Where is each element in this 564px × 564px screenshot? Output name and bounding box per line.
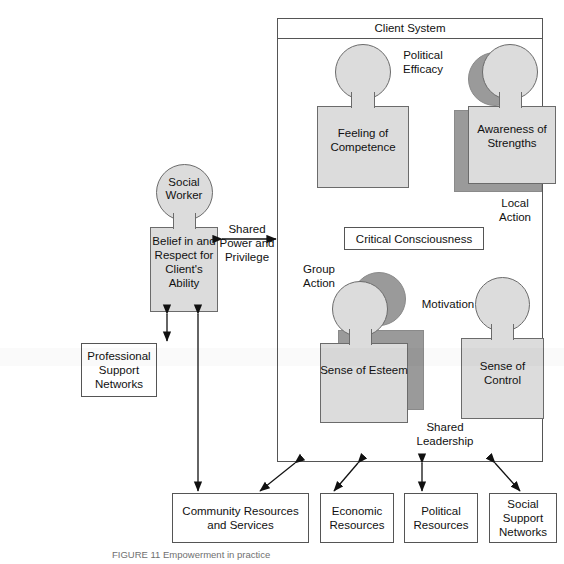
- professional-support-networks-box: Professional Support Networks: [81, 343, 157, 397]
- person-label-sense-of-control: Sense of Control: [461, 359, 544, 387]
- resource-box-economic-resources: Economic Resources: [320, 493, 394, 543]
- person-social-worker: Social Worker Belief in and Respect for …: [150, 164, 218, 312]
- annotation-shared-leadership: Shared Leadership: [390, 420, 500, 448]
- person-label-feeling-of-competence: Feeling of Competence: [317, 126, 409, 154]
- critical-consciousness-box: Critical Consciousness: [344, 227, 484, 250]
- person-label-social-worker-body: Belief in and Respect for Client's Abili…: [150, 234, 218, 290]
- resource-box-community-resources-and-services: Community Resources and Services: [172, 493, 309, 543]
- client-system-title: Client System: [375, 22, 446, 34]
- client-system-header: Client System: [277, 18, 543, 39]
- person-label-sense-of-esteem: Sense of Esteem: [320, 363, 408, 377]
- figure-canvas: Client System Feeling of Competence Awar…: [0, 0, 564, 564]
- resource-box-social-support-networks: Social Support Networks: [489, 493, 557, 543]
- resource-box-political-resources: Political Resources: [404, 493, 478, 543]
- person-label-awareness-of-strengths: Awareness of Strengths: [468, 122, 556, 150]
- figure-caption: FIGURE 11 Empowerment in practice: [112, 549, 270, 560]
- person-neck: [173, 213, 196, 229]
- resource-box-label: Political Resources: [414, 504, 469, 532]
- person-label-social-worker-head: Social Worker: [150, 176, 218, 202]
- resource-box-label: Economic Resources: [330, 504, 385, 532]
- resource-box-label: Social Support Networks: [499, 497, 547, 539]
- professional-support-networks-label: Professional Support Networks: [87, 349, 150, 391]
- arrow-client-system-to-social-support-networks: [495, 463, 520, 491]
- person-neck: [351, 92, 375, 108]
- arrow-client-system-to-economic-resources: [334, 463, 358, 491]
- person-sense-of-control: Sense of Control: [461, 277, 544, 419]
- person-neck: [499, 92, 522, 108]
- person-neck: [491, 324, 514, 340]
- arrow-client-system-to-community-resources: [260, 463, 295, 491]
- person-neck: [349, 329, 372, 345]
- annotation-shared-power-and-privilege: Shared Power and Privilege: [216, 222, 278, 264]
- person-body: [320, 343, 408, 423]
- resource-box-label: Community Resources and Services: [182, 504, 298, 532]
- annotation-local-action: Local Action: [475, 196, 555, 224]
- critical-consciousness-label: Critical Consciousness: [356, 232, 472, 246]
